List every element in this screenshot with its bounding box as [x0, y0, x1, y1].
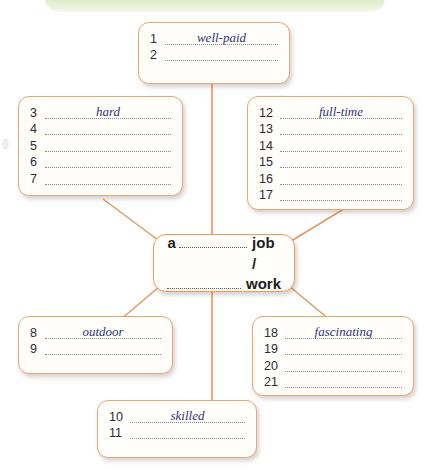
answer-text-wrap — [280, 139, 402, 153]
answer-line[interactable]: full-time — [280, 106, 402, 120]
answer-line[interactable]: hard — [45, 106, 171, 120]
answer-line[interactable]: well-paid — [165, 32, 278, 46]
answer-text-wrap — [285, 359, 402, 373]
answer-line[interactable] — [280, 139, 402, 153]
answer-text-wrap — [45, 139, 171, 153]
row-number: 15 — [259, 155, 276, 169]
answer-row[interactable]: 4 — [30, 120, 171, 137]
central-prompt-noun-2: work — [246, 273, 281, 294]
answer-text-wrap: skilled — [130, 410, 245, 424]
answers-box-right-upper[interactable]: 12 full-time 13 14 15 — [247, 96, 414, 210]
answer-row[interactable]: 14 — [259, 136, 402, 153]
answer-row[interactable]: 15 — [259, 153, 402, 170]
answer-rows-right-lower: 18 fascinating 19 20 21 — [253, 317, 413, 389]
row-number: 21 — [264, 375, 281, 389]
central-prompt-content: a job / work — [154, 235, 294, 291]
answer-line[interactable] — [45, 139, 171, 153]
answer-line[interactable] — [45, 172, 171, 186]
answer-line[interactable] — [285, 359, 402, 373]
answer-line[interactable] — [285, 375, 402, 389]
answer-text-wrap — [130, 426, 245, 440]
answer-row[interactable]: 7 — [30, 169, 171, 186]
answer-text-wrap — [280, 172, 402, 186]
central-prompt-article: a — [168, 232, 176, 253]
answer-text-wrap — [285, 375, 402, 389]
answer-line[interactable] — [45, 342, 161, 356]
answer-text-wrap — [280, 155, 402, 169]
answer-text-wrap — [45, 172, 171, 186]
answer-row[interactable]: 10 skilled — [109, 407, 245, 424]
answer-text-wrap: fascinating — [285, 326, 402, 340]
answers-box-top[interactable]: 1 well-paid 2 — [138, 22, 290, 84]
answer-line[interactable] — [285, 342, 402, 356]
row-number: 17 — [259, 188, 276, 202]
answer-row[interactable]: 6 — [30, 153, 171, 170]
answer-row[interactable]: 13 — [259, 120, 402, 137]
answer-row[interactable]: 16 — [259, 169, 402, 186]
row-number: 12 — [259, 106, 276, 120]
answer-text-wrap — [280, 188, 402, 202]
answer-row[interactable]: 8 outdoor — [30, 323, 161, 340]
answer-rows-top: 1 well-paid 2 — [139, 23, 289, 62]
answers-box-right-lower[interactable]: 18 fascinating 19 20 21 — [252, 316, 414, 396]
answer-row[interactable]: 9 — [30, 340, 161, 357]
answer-text-wrap — [165, 48, 278, 62]
answer-row[interactable]: 20 — [264, 356, 402, 373]
central-prompt-box[interactable]: a job / work — [153, 234, 295, 292]
row-number: 6 — [30, 155, 41, 169]
row-number: 16 — [259, 172, 276, 186]
answer-row[interactable]: 12 full-time — [259, 103, 402, 120]
central-prompt-noun-1: job / — [252, 232, 280, 274]
row-number: 20 — [264, 359, 281, 373]
row-number: 13 — [259, 122, 276, 136]
answer-line[interactable] — [165, 48, 278, 62]
worksheet-page: 1 well-paid 2 3 hard 4 — [0, 0, 432, 468]
answer-line[interactable]: skilled — [130, 410, 245, 424]
row-number: 11 — [109, 426, 126, 440]
row-number: 9 — [30, 342, 41, 356]
answers-box-left-upper[interactable]: 3 hard 4 5 6 — [18, 96, 183, 196]
answer-rows-left-upper: 3 hard 4 5 6 — [19, 97, 182, 186]
answer-text-wrap — [285, 342, 402, 356]
answer-row[interactable]: 11 — [109, 424, 245, 441]
answer-line[interactable]: fascinating — [285, 326, 402, 340]
answer-row[interactable]: 21 — [264, 373, 402, 390]
row-number: 5 — [30, 139, 41, 153]
row-number: 19 — [264, 342, 281, 356]
row-number: 3 — [30, 106, 41, 120]
central-blank-1[interactable] — [179, 236, 247, 248]
answer-rows-bottom: 10 skilled 11 — [98, 401, 256, 440]
answer-text: well-paid — [193, 32, 250, 44]
answer-row[interactable]: 5 — [30, 136, 171, 153]
answer-line[interactable] — [45, 122, 171, 136]
row-number: 14 — [259, 139, 276, 153]
answer-row[interactable]: 17 — [259, 186, 402, 203]
answer-text-wrap: hard — [45, 106, 171, 120]
answer-line[interactable] — [280, 172, 402, 186]
answers-box-left-lower[interactable]: 8 outdoor 9 — [18, 316, 173, 374]
answer-line[interactable] — [45, 155, 171, 169]
answer-text-wrap — [45, 342, 161, 356]
central-blank-2[interactable] — [167, 277, 241, 289]
row-number: 7 — [30, 172, 41, 186]
answer-text-wrap — [280, 122, 402, 136]
answer-row[interactable]: 19 — [264, 340, 402, 357]
answer-text: full-time — [315, 106, 367, 118]
answer-row[interactable]: 1 well-paid — [150, 29, 278, 46]
row-number: 10 — [109, 410, 126, 424]
answer-text-wrap: well-paid — [165, 32, 278, 46]
row-number: 2 — [150, 48, 161, 62]
answer-row[interactable]: 3 hard — [30, 103, 171, 120]
answer-line[interactable] — [280, 188, 402, 202]
answer-row[interactable]: 18 fascinating — [264, 323, 402, 340]
scan-artifact — [2, 138, 9, 150]
answer-text: hard — [92, 106, 124, 118]
answer-line[interactable]: outdoor — [45, 326, 161, 340]
answer-line[interactable] — [280, 155, 402, 169]
answers-box-bottom[interactable]: 10 skilled 11 — [97, 400, 257, 458]
answer-line[interactable] — [130, 426, 245, 440]
answer-row[interactable]: 2 — [150, 46, 278, 63]
answer-text-wrap: outdoor — [45, 326, 161, 340]
answer-rows-right-upper: 12 full-time 13 14 15 — [248, 97, 413, 202]
answer-line[interactable] — [280, 122, 402, 136]
